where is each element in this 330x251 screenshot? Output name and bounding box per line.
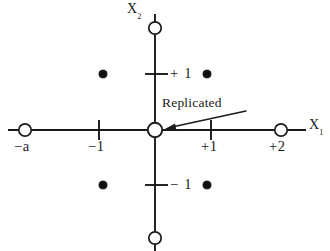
x-axis-label-text: X — [309, 117, 319, 132]
y-axis-label-subscript: 2 — [137, 12, 141, 21]
replicated-arrow-head — [164, 124, 177, 131]
x-tick-label-minus-a: −a — [14, 139, 30, 154]
factorial-point-minus1-plus1 — [99, 70, 107, 78]
factorial-point-plus1-minus1 — [203, 181, 211, 189]
center-point-replicated — [148, 123, 162, 137]
x-axis-label-subscript: 1 — [319, 128, 323, 137]
y-tick-label-minus-1: − 1 — [170, 177, 193, 192]
x-tick-label-plus-2: +2 — [269, 139, 285, 154]
y-axis-label: X2 — [127, 2, 141, 19]
plot-canvas — [0, 0, 330, 251]
y-tick-label-plus-1: + 1 — [170, 66, 193, 81]
x-axis-label: X1 — [309, 118, 323, 135]
replicated-leader-line — [172, 111, 246, 127]
x-tick-label-plus-1: +1 — [201, 139, 217, 154]
factorial-point-plus1-plus1 — [203, 70, 211, 78]
axial-point-bottom — [149, 232, 161, 244]
axial-point-plus-a — [275, 124, 287, 136]
y-axis-label-text: X — [127, 1, 137, 16]
replicated-annotation-label: Replicated — [162, 96, 222, 110]
axial-point-minus-a — [19, 124, 31, 136]
central-composite-design-figure: X2 X1 −a −1 +1 +2 + 1 − 1 Replicated — [0, 0, 330, 251]
axial-point-top — [149, 22, 161, 34]
factorial-point-minus1-minus1 — [99, 181, 107, 189]
x-tick-label-minus-1: −1 — [88, 139, 104, 154]
